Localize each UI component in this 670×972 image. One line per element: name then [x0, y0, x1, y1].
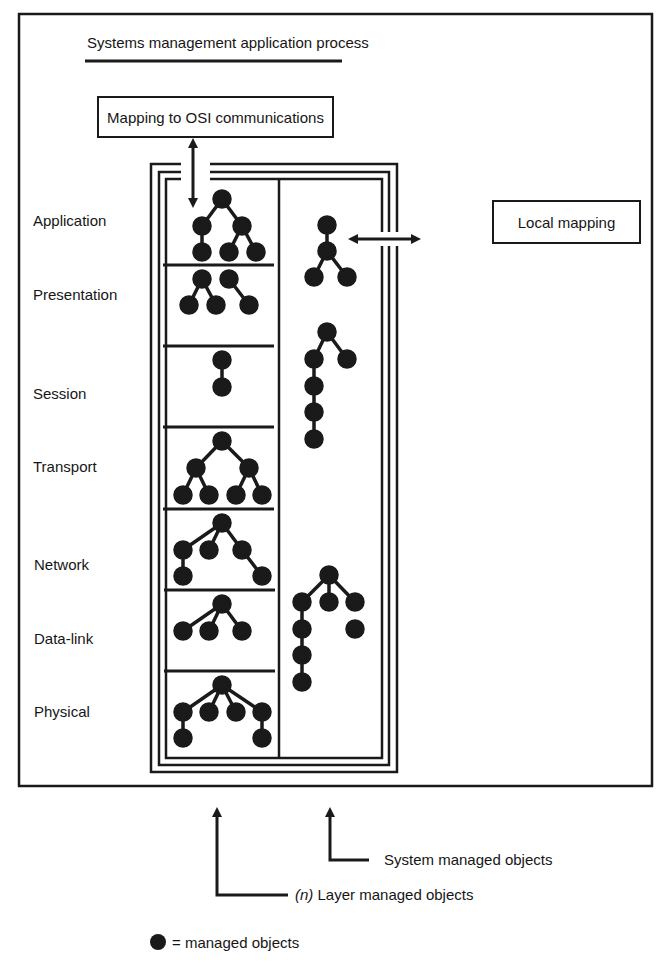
diagram-canvas: [0, 0, 670, 972]
tree-transport: [175, 433, 270, 503]
local-mapping-label: Local mapping: [518, 214, 616, 231]
layer-label-application: Application: [33, 213, 106, 228]
osi-mapping-label: Mapping to OSI communications: [107, 109, 324, 126]
callout-arrows: [217, 812, 369, 895]
layer-label-transport: Transport: [33, 459, 97, 474]
layer-managed-arrow: [217, 812, 288, 895]
managed-object-trees: [175, 191, 363, 746]
tree-data-link: [175, 596, 250, 639]
system-managed-arrow: [330, 812, 369, 860]
layer-label-network: Network: [34, 557, 89, 572]
osi-mapping-box: Mapping to OSI communications: [97, 96, 334, 138]
tree-system-bottom: [294, 567, 363, 690]
tree-presentation: [181, 271, 257, 313]
layer-label-physical: Physical: [34, 704, 90, 719]
tree-system-middle: [306, 324, 355, 447]
tree-session: [214, 352, 230, 395]
local-mapping-box: Local mapping: [492, 200, 641, 244]
tree-physical: [175, 677, 270, 746]
legend-text: = managed objects: [172, 935, 299, 950]
layer-managed-objects-label: (n) Layer managed objects: [295, 887, 473, 902]
layer-label-presentation: Presentation: [33, 287, 117, 302]
layer-label-session: Session: [33, 386, 86, 401]
legend-managed-object-icon: [150, 934, 166, 950]
diagram-title: Systems management application process: [87, 35, 369, 50]
tree-network: [175, 515, 270, 584]
tree-application: [194, 191, 264, 260]
system-managed-objects-label: System managed objects: [384, 852, 552, 867]
layer-managed-text: Layer managed objects: [318, 886, 474, 903]
layer-n-prefix: (n): [295, 886, 313, 903]
tree-system-top: [306, 217, 355, 285]
layer-label-data-link: Data-link: [34, 631, 93, 646]
